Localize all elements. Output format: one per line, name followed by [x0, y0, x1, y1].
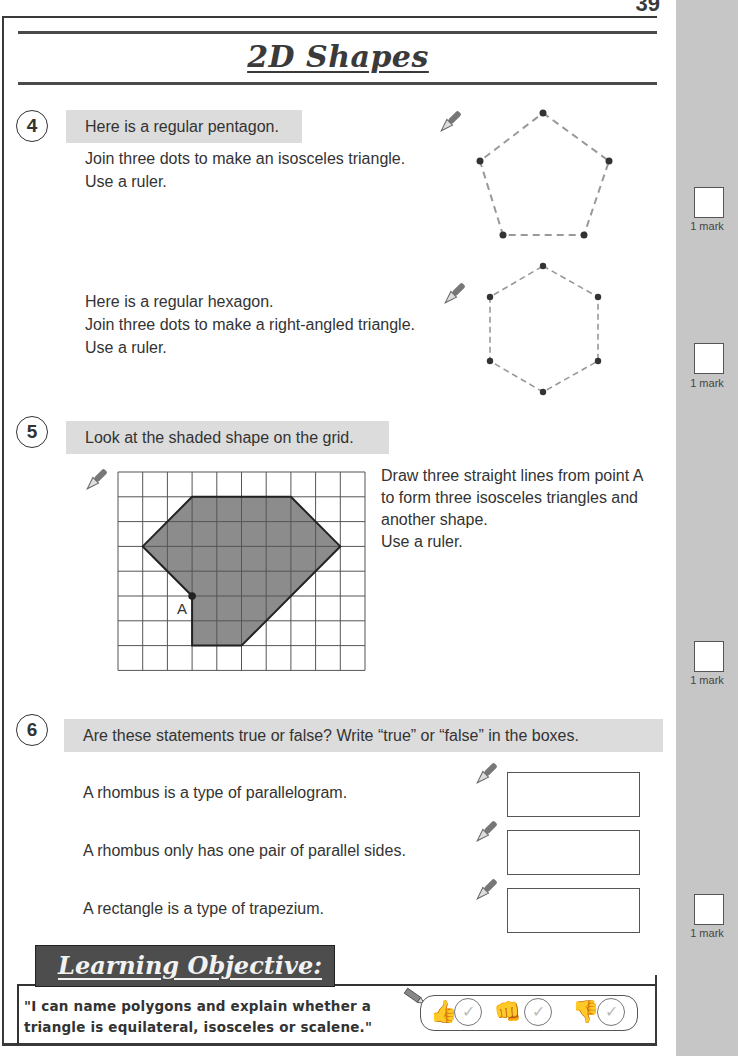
- check-circle-ok[interactable]: ✓: [524, 998, 552, 1026]
- question-5-instruction: Draw three straight lines from point A t…: [381, 465, 643, 553]
- mark-box-q5[interactable]: [694, 641, 724, 672]
- mark-label: 1 mark: [676, 927, 738, 939]
- mark-label: 1 mark: [676, 674, 738, 686]
- check-circle-not-yet[interactable]: ✓: [597, 998, 625, 1026]
- pen-icon: [80, 466, 110, 496]
- mark-label: 1 mark: [676, 377, 738, 389]
- thumbs-sideways-icon[interactable]: 👊: [494, 999, 521, 1025]
- instruction-line: another shape.: [381, 509, 643, 531]
- learning-objective-heading: Learning Objective:: [36, 946, 334, 986]
- mark-box-q6[interactable]: [694, 894, 724, 925]
- point-a: [188, 592, 196, 600]
- learning-objective-text: "I can name polygons and explain whether…: [24, 996, 372, 1038]
- statement-1: A rhombus is a type of parallelogram.: [83, 781, 347, 804]
- learning-objective-banner: Learning Objective:: [35, 945, 335, 987]
- pen-icon: [470, 818, 500, 848]
- instruction-line: to form three isosceles triangles and: [381, 487, 643, 509]
- mark-box-q4b[interactable]: [694, 343, 724, 374]
- objective-line: "I can name polygons and explain whether…: [24, 996, 372, 1017]
- question-number-5: 5: [16, 416, 48, 448]
- mark-box-q4a[interactable]: [694, 187, 724, 218]
- statement-2: A rhombus only has one pair of parallel …: [83, 839, 406, 862]
- learning-objective-rule: [333, 984, 657, 986]
- check-circle-good[interactable]: ✓: [454, 998, 482, 1026]
- question-number-6: 6: [16, 714, 48, 746]
- answer-box-3[interactable]: [507, 888, 640, 933]
- pen-icon: [470, 760, 500, 790]
- mark-label: 1 mark: [676, 220, 738, 232]
- thumbs-up-icon[interactable]: 👍: [430, 999, 457, 1025]
- instruction-line: Draw three straight lines from point A: [381, 465, 643, 487]
- statement-3: A rectangle is a type of trapezium.: [83, 897, 324, 920]
- shape-grid[interactable]: A: [118, 472, 368, 674]
- pen-icon: [470, 876, 500, 906]
- point-a-label: A: [177, 600, 187, 617]
- answer-box-2[interactable]: [507, 830, 640, 875]
- answer-box-1[interactable]: [507, 772, 640, 817]
- instruction-line: Use a ruler.: [381, 531, 643, 553]
- thumbs-down-icon[interactable]: 👎: [572, 999, 599, 1025]
- question-5-prompt: Look at the shaded shape on the grid.: [66, 421, 389, 454]
- objective-line: triangle is equilateral, isosceles or sc…: [24, 1017, 372, 1038]
- question-6-prompt: Are these statements true or false? Writ…: [64, 719, 663, 752]
